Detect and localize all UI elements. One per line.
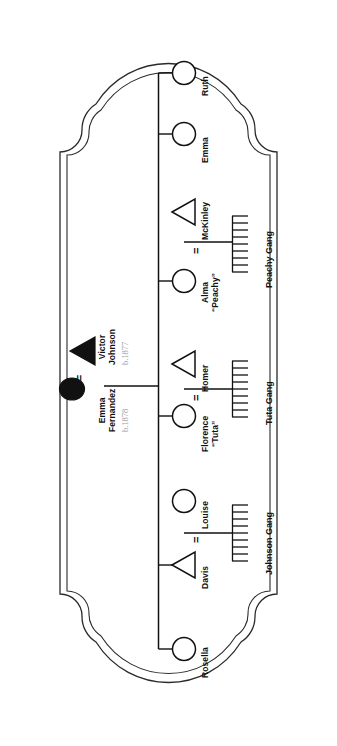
- label-tuta-gang: Tuta Gang: [264, 381, 274, 425]
- symbol-homer-male: [172, 351, 195, 377]
- label-emma-fernandez: Emma Fernandez: [98, 389, 117, 432]
- label-emma-fernandez-line1: Emma: [97, 397, 107, 423]
- symbol-victor-johnson-male-filled: [70, 337, 95, 365]
- symbol-emma-fernandez-female-filled: [60, 378, 85, 400]
- symbol-ruth-female: [173, 62, 196, 85]
- symbol-rosella-female: [173, 638, 196, 661]
- label-victor-johnson: Victor Johnson: [98, 329, 117, 365]
- marriage-equals-florence-homer: =: [190, 395, 202, 401]
- symbol-emma-female: [173, 123, 196, 146]
- label-rosella: Rosella: [201, 647, 211, 678]
- label-emma-fernandez-line2: Fernandez: [107, 389, 117, 432]
- label-davis: Davis: [201, 566, 211, 589]
- label-alma-peachy: Alma “Peachy”: [201, 273, 220, 312]
- symbol-davis-male: [172, 552, 195, 578]
- label-victor-johnson-birth: b.1877: [120, 342, 130, 365]
- label-ruth: Ruth: [201, 76, 211, 96]
- label-victor-johnson-line1: Victor: [97, 335, 107, 360]
- pedigree-tree: [0, 0, 337, 746]
- label-louise: Louise: [201, 501, 211, 529]
- label-victor-johnson-line2: Johnson: [107, 329, 117, 365]
- label-peachy-gang: Peachy Gang: [264, 231, 274, 288]
- label-emma: Emma: [201, 137, 211, 163]
- pedigree-chart-page: = Emma Fernandez b.1878 Victor Johnson b…: [0, 0, 337, 746]
- label-florence-tuta-line2: “Tuta”: [210, 421, 220, 447]
- label-alma-peachy-line2: “Peachy”: [210, 273, 220, 312]
- symbol-florence-tuta-female: [173, 405, 196, 428]
- marriage-equals-parents: =: [73, 375, 85, 381]
- label-homer: Homer: [201, 365, 211, 392]
- label-emma-fernandez-birth: b.1878: [120, 409, 130, 432]
- label-alma-peachy-line1: Alma: [200, 282, 210, 303]
- label-florence-tuta-line1: Florence: [200, 416, 210, 452]
- symbol-mckinley-male: [172, 199, 195, 225]
- symbol-louise-female: [173, 490, 196, 513]
- marriage-equals-davis-louise: =: [190, 537, 202, 543]
- marriage-equals-alma-mckinley: =: [190, 248, 202, 254]
- label-florence-tuta: Florence “Tuta”: [201, 416, 220, 452]
- label-mckinley: McKinley: [201, 202, 211, 240]
- label-johnson-gang: Johnson Gang: [264, 512, 274, 575]
- symbol-alma-peachy-female: [173, 270, 196, 293]
